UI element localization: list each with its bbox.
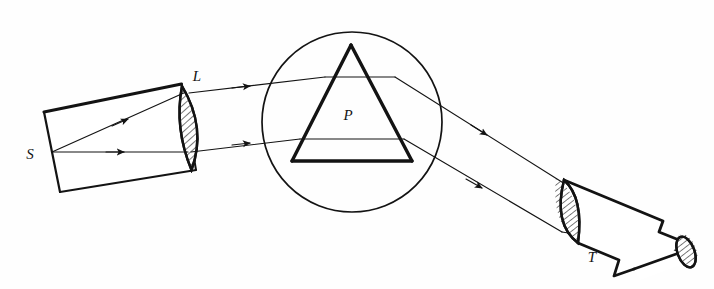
- collimator-tube-body: [44, 84, 196, 192]
- label-collimator-lens: L: [192, 68, 201, 84]
- label-prism: P: [342, 107, 352, 123]
- upper-ray-lens-to-prism: [189, 77, 325, 93]
- label-source-slit: S: [26, 146, 34, 162]
- optics-diagram-svg: S L P T: [0, 0, 714, 289]
- ray-arrow-5: [471, 125, 487, 135]
- telescope-tube-body: [564, 180, 688, 280]
- prism-body: [292, 45, 412, 161]
- telescope-assembly: [546, 172, 706, 280]
- lower-ray-prism-to-telescope: [404, 139, 562, 232]
- prism: [292, 45, 412, 161]
- ray-arrow-3: [232, 86, 250, 88]
- ray-arrow-4: [232, 143, 250, 145]
- lower-ray-lens-to-prism: [191, 139, 300, 152]
- figure-root: S L P T: [0, 0, 714, 289]
- collimator-assembly: [44, 80, 216, 192]
- telescope-eyepiece-lens: [672, 230, 706, 276]
